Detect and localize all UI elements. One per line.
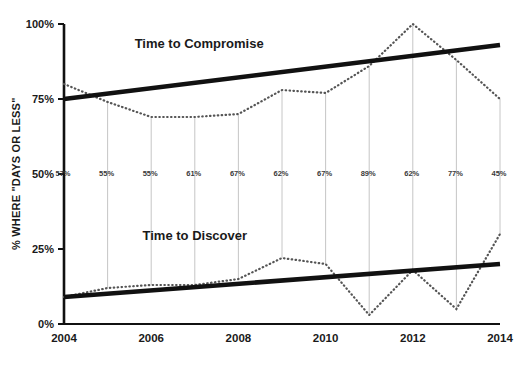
y-axis-title: % WHERE "DAYS OR LESS" [10, 97, 22, 250]
x-tick-label: 2014 [487, 332, 513, 344]
chart-container: 0%25%50%75%100% 200420062008201020122014… [0, 0, 514, 365]
y-tick-label: 75% [32, 93, 54, 105]
x-tick-label: 2006 [138, 332, 164, 344]
point-percentage-label: 57% [55, 169, 70, 178]
x-tick-label: 2010 [313, 332, 339, 344]
x-tick-label: 2004 [51, 332, 77, 344]
trend-line [64, 264, 500, 297]
point-percentage-label: 61% [186, 169, 201, 178]
y-tick-labels: 0%25%50%75%100% [26, 18, 54, 330]
point-percentage-label: 62% [273, 169, 288, 178]
y-tick-label: 50% [32, 168, 54, 180]
series-annotation-label: Time to Discover [143, 228, 248, 243]
point-percentage-label: 67% [317, 169, 332, 178]
x-tick-label: 2012 [400, 332, 426, 344]
point-percentage-label: 55% [99, 169, 114, 178]
y-tick-label: 25% [32, 243, 54, 255]
series-annotation-label: Time to Compromise [135, 36, 264, 51]
point-percentage-label: 55% [143, 169, 158, 178]
point-percentage-label: 89% [361, 169, 376, 178]
y-tick-label: 0% [38, 318, 54, 330]
series-annotations: Time to CompromiseTime to Discover [135, 36, 264, 243]
point-percentage-labels: 57%55%55%61%67%62%67%89%62%77%45% [55, 169, 506, 178]
point-percentage-label: 62% [404, 169, 419, 178]
x-tick-label: 2008 [226, 332, 252, 344]
point-percentage-label: 67% [230, 169, 245, 178]
point-percentage-label: 45% [491, 169, 506, 178]
point-percentage-label: 77% [448, 169, 463, 178]
line-chart: 0%25%50%75%100% 200420062008201020122014… [0, 0, 514, 365]
x-tick-labels: 200420062008201020122014 [51, 332, 513, 344]
y-tick-label: 100% [26, 18, 54, 30]
